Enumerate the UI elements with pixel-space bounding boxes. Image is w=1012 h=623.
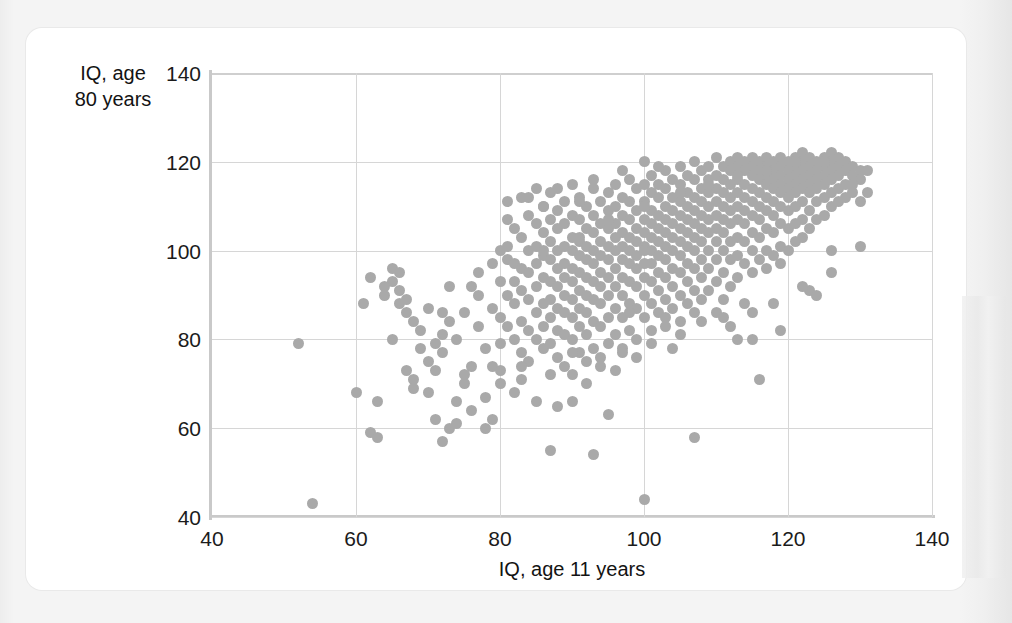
data-point: [495, 276, 506, 287]
data-point: [444, 281, 455, 292]
data-point: [545, 338, 556, 349]
y-tick-label: 40: [141, 507, 201, 528]
x-tick-label: 60: [311, 528, 401, 549]
data-point: [567, 396, 578, 407]
data-point: [509, 298, 520, 309]
gridline-vertical: [788, 73, 789, 517]
data-point: [415, 343, 426, 354]
data-point: [588, 449, 599, 460]
data-point: [372, 432, 383, 443]
data-point: [826, 267, 837, 278]
data-point: [459, 307, 470, 318]
data-point: [531, 307, 542, 318]
data-point: [675, 329, 686, 340]
data-point: [639, 494, 650, 505]
data-point: [387, 334, 398, 345]
data-point: [509, 334, 520, 345]
data-point: [732, 170, 743, 181]
data-point: [495, 378, 506, 389]
data-point: [567, 347, 578, 358]
data-point: [603, 338, 614, 349]
data-point: [473, 321, 484, 332]
data-point: [768, 227, 779, 238]
data-point: [487, 414, 498, 425]
data-point: [567, 334, 578, 345]
data-point: [293, 338, 304, 349]
data-point: [437, 436, 448, 447]
data-point: [718, 312, 729, 323]
data-point: [567, 369, 578, 380]
data-point: [466, 405, 477, 416]
data-point: [862, 187, 873, 198]
data-point: [610, 365, 621, 376]
data-point: [379, 281, 390, 292]
data-point: [480, 343, 491, 354]
data-point: [502, 321, 513, 332]
data-point: [603, 409, 614, 420]
data-point: [365, 272, 376, 283]
data-point: [588, 174, 599, 185]
data-point: [451, 396, 462, 407]
data-point: [351, 387, 362, 398]
x-axis-tick-labels: 406080100120140: [212, 528, 932, 556]
data-point: [531, 183, 542, 194]
data-point: [552, 401, 563, 412]
data-point: [675, 316, 686, 327]
y-axis-tick-labels: 406080100120140: [133, 73, 201, 517]
data-point: [480, 392, 491, 403]
gridline-vertical: [932, 73, 933, 517]
data-point: [811, 290, 822, 301]
data-point: [617, 347, 628, 358]
data-point: [631, 352, 642, 363]
data-point: [307, 498, 318, 509]
x-tick-label: 100: [599, 528, 689, 549]
data-point: [581, 378, 592, 389]
data-point: [523, 294, 534, 305]
data-point: [408, 383, 419, 394]
y-tick-label: 120: [141, 152, 201, 173]
data-point: [487, 258, 498, 269]
data-point: [783, 245, 794, 256]
x-tick-label: 80: [455, 528, 545, 549]
data-point: [567, 179, 578, 190]
data-point: [675, 187, 686, 198]
data-point: [703, 179, 714, 190]
data-point: [574, 196, 585, 207]
data-point: [430, 414, 441, 425]
data-point: [732, 272, 743, 283]
data-point: [394, 267, 405, 278]
data-point: [552, 183, 563, 194]
data-point: [718, 294, 729, 305]
data-point: [667, 343, 678, 354]
plot-area: [212, 73, 932, 517]
x-tick-label: 120: [743, 528, 833, 549]
data-point: [631, 334, 642, 345]
data-point: [703, 285, 714, 296]
data-point: [401, 294, 412, 305]
data-point: [415, 325, 426, 336]
data-point: [552, 205, 563, 216]
data-point: [372, 396, 383, 407]
data-point: [538, 245, 549, 256]
data-point: [732, 334, 743, 345]
data-point: [545, 445, 556, 456]
data-point: [516, 232, 527, 243]
data-point: [624, 307, 635, 318]
data-point: [430, 365, 441, 376]
data-point: [768, 298, 779, 309]
data-point: [523, 192, 534, 203]
y-tick-label: 60: [141, 418, 201, 439]
data-point: [819, 156, 830, 167]
data-point: [473, 267, 484, 278]
data-point: [847, 179, 858, 190]
data-point: [711, 254, 722, 265]
data-point: [523, 267, 534, 278]
data-point: [711, 276, 722, 287]
data-point: [509, 387, 520, 398]
data-point: [603, 312, 614, 323]
data-point: [610, 179, 621, 190]
data-point: [761, 263, 772, 274]
data-point: [725, 321, 736, 332]
data-point: [775, 258, 786, 269]
data-point: [754, 374, 765, 385]
